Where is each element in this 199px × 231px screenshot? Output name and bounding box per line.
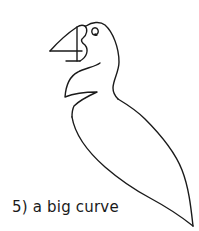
caption-line-1: 5) a big curve — [12, 198, 119, 216]
throat-curve — [65, 63, 100, 117]
eye — [92, 28, 99, 35]
face-edge — [80, 26, 87, 61]
beak-upper — [50, 25, 85, 51]
caption: 5) a big curve on the bottom... — [2, 180, 140, 231]
head-outline — [86, 22, 119, 99]
